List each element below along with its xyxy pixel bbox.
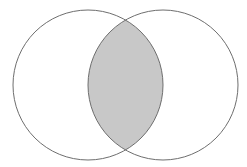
venn-diagram [0, 0, 247, 167]
